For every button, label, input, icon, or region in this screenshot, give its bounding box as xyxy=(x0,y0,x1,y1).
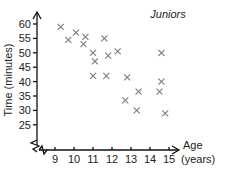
x-tick-label: 13 xyxy=(125,153,137,165)
y-axis-ticks: 2530354045505560 xyxy=(19,18,37,131)
scatter-chart: Juniors Time (minutes) 2530354045505560 … xyxy=(0,0,228,175)
x-tick-label: 11 xyxy=(87,153,98,165)
x-marker-icon xyxy=(92,58,98,64)
x-marker-icon xyxy=(158,79,164,85)
axis-break-icon xyxy=(31,140,39,152)
chart-title: Juniors xyxy=(149,8,186,20)
x-marker-icon xyxy=(82,34,88,40)
x-marker-icon xyxy=(136,89,142,95)
x-marker-icon xyxy=(58,24,64,30)
data-points xyxy=(58,24,169,116)
y-tick-label: 40 xyxy=(19,76,31,88)
y-tick-label: 55 xyxy=(19,32,31,44)
x-marker-icon xyxy=(101,35,107,41)
x-marker-icon xyxy=(158,50,164,56)
y-tick-label: 25 xyxy=(19,119,31,131)
x-marker-icon xyxy=(162,110,168,116)
x-axis: 9101112131415 xyxy=(39,146,179,165)
x-tick-label: 9 xyxy=(52,153,58,165)
x-axis-label-line2: (years) xyxy=(181,153,215,165)
x-marker-icon xyxy=(105,53,111,59)
x-marker-icon xyxy=(103,73,109,79)
x-marker-icon xyxy=(157,89,163,95)
x-marker-icon xyxy=(90,50,96,56)
y-axis-label: Time (minutes) xyxy=(2,44,14,117)
x-marker-icon xyxy=(134,107,140,113)
x-marker-icon xyxy=(65,37,71,43)
x-tick-label: 14 xyxy=(144,153,156,165)
y-axis: 2530354045505560 xyxy=(19,12,41,145)
y-tick-label: 60 xyxy=(19,18,31,30)
x-tick-label: 10 xyxy=(68,153,80,165)
x-marker-icon xyxy=(90,73,96,79)
x-marker-icon xyxy=(115,48,121,54)
x-marker-icon xyxy=(122,97,128,103)
y-tick-label: 50 xyxy=(19,47,31,59)
x-marker-icon xyxy=(81,41,87,47)
x-axis-label-line1: Age xyxy=(183,139,203,151)
y-tick-label: 45 xyxy=(19,61,31,73)
x-marker-icon xyxy=(124,74,130,80)
y-tick-label: 30 xyxy=(19,104,31,116)
x-tick-label: 15 xyxy=(163,153,175,165)
x-tick-label: 12 xyxy=(106,153,118,165)
x-marker-icon xyxy=(73,30,79,36)
y-tick-label: 35 xyxy=(19,90,31,102)
